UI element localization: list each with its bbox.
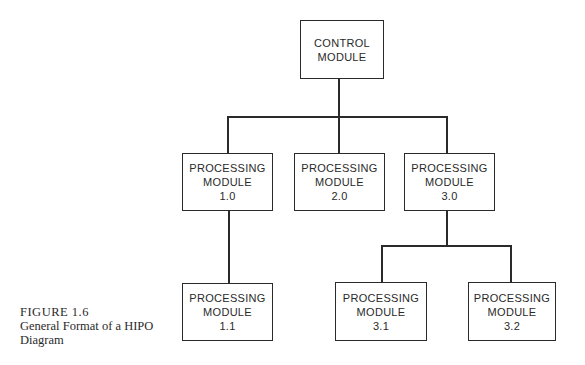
node-label: PROCESSING: [474, 291, 550, 305]
figure-label: FIGURE 1.6: [20, 305, 153, 319]
processing-module-3-0-box: PROCESSING MODULE 3.0: [404, 153, 495, 211]
node-number: 3.2: [504, 319, 520, 333]
node-label: MODULE: [315, 175, 364, 189]
node-label: CONTROL: [314, 36, 370, 50]
node-label: MODULE: [203, 175, 252, 189]
processing-module-3-2-box: PROCESSING MODULE 3.2: [468, 282, 556, 341]
connector-level1-bar: [227, 116, 447, 118]
node-number: 1.0: [219, 189, 235, 203]
node-label: PROCESSING: [411, 161, 487, 175]
node-number: 3.1: [373, 319, 389, 333]
connector-3-0-down: [446, 210, 448, 246]
node-label: MODULE: [203, 305, 252, 319]
node-label: MODULE: [425, 175, 474, 189]
figure-title-line2: Diagram: [20, 333, 153, 347]
connector-to-3-0: [446, 116, 448, 153]
node-label: PROCESSING: [301, 161, 377, 175]
control-module-box: CONTROL MODULE: [300, 20, 384, 79]
connector-to-3-2: [510, 245, 512, 282]
node-number: 3.0: [441, 189, 457, 203]
connector-control-down: [338, 78, 340, 117]
figure-caption: FIGURE 1.6 General Format of a HIPO Diag…: [20, 305, 153, 347]
node-label: PROCESSING: [189, 161, 265, 175]
connector-to-2-0: [338, 116, 340, 153]
node-label: MODULE: [488, 305, 537, 319]
figure-title-line1: General Format of a HIPO: [20, 319, 153, 333]
node-label: MODULE: [318, 50, 367, 64]
node-label: PROCESSING: [343, 291, 419, 305]
connector-to-1-0: [227, 116, 229, 153]
processing-module-1-1-box: PROCESSING MODULE 1.1: [182, 283, 273, 341]
processing-module-2-0-box: PROCESSING MODULE 2.0: [294, 153, 385, 211]
node-number: 1.1: [219, 319, 235, 333]
connector-level3-bar: [381, 245, 511, 247]
connector-to-3-1: [381, 245, 383, 282]
node-number: 2.0: [331, 189, 347, 203]
processing-module-3-1-box: PROCESSING MODULE 3.1: [335, 282, 427, 341]
node-label: MODULE: [357, 305, 406, 319]
connector-1-0-to-1-1: [228, 210, 230, 283]
processing-module-1-0-box: PROCESSING MODULE 1.0: [182, 153, 273, 211]
node-label: PROCESSING: [189, 291, 265, 305]
